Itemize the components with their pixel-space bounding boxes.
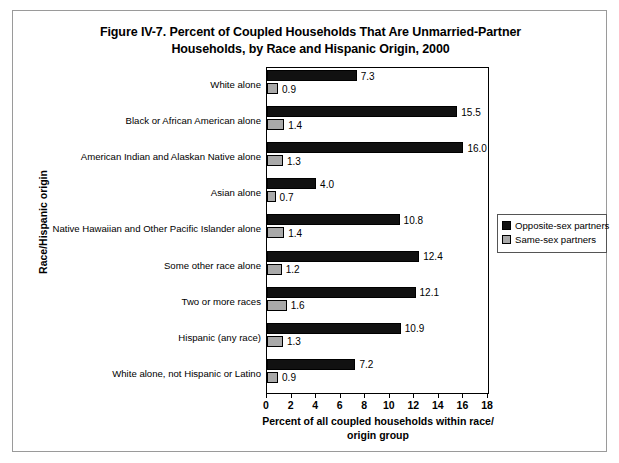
x-axis-title: Percent of all coupled households within…: [163, 414, 593, 442]
bar-rect: [267, 119, 284, 130]
bar-rect: [267, 323, 401, 334]
x-tick-mark: [340, 393, 341, 398]
bar-opposite-sex: 4.0: [267, 178, 488, 189]
bar-same-sex: 1.3: [267, 155, 488, 166]
bar-value-label: 15.5: [457, 106, 480, 117]
bar-same-sex: 1.4: [267, 227, 488, 238]
bar-value-label: 1.3: [283, 155, 301, 166]
legend-label: Opposite-sex partners: [515, 220, 609, 231]
bar-rect: [267, 264, 282, 275]
category-label: Some other race alone: [17, 260, 267, 271]
bar-rect: [267, 142, 463, 153]
x-tick-label: 18: [472, 399, 502, 411]
x-axis-title-line-1: Percent of all coupled households within…: [163, 414, 593, 428]
bar-opposite-sex: 10.9: [267, 323, 488, 334]
bar-value-label: 0.7: [276, 191, 294, 202]
bar-group: Native Hawaiian and Other Pacific Island…: [267, 212, 488, 248]
x-tick-mark: [462, 393, 463, 398]
bar-rect: [267, 227, 284, 238]
bar-opposite-sex: 7.3: [267, 70, 488, 81]
category-label: American Indian and Alaskan Native alone: [17, 151, 267, 162]
bar-rect: [267, 336, 283, 347]
bar-group: Asian alone4.00.7: [267, 176, 488, 212]
bar-value-label: 10.9: [401, 323, 424, 334]
bar-opposite-sex: 10.8: [267, 214, 488, 225]
bar-value-label: 10.8: [400, 214, 423, 225]
bar-value-label: 1.2: [282, 264, 300, 275]
x-tick-mark: [487, 393, 488, 398]
x-tick-mark: [291, 393, 292, 398]
bar-group: White alone7.30.9: [267, 68, 488, 104]
bar-group: Two or more races12.11.6: [267, 285, 488, 321]
bar-value-label: 0.9: [278, 83, 296, 94]
bar-same-sex: 1.6: [267, 300, 488, 311]
x-tick-mark: [413, 393, 414, 398]
figure-frame: Figure IV-7. Percent of Coupled Househol…: [12, 10, 607, 452]
category-label: Hispanic (any race): [17, 332, 267, 343]
chart-legend: Opposite-sex partnersSame-sex partners: [497, 214, 607, 253]
bar-opposite-sex: 16.0: [267, 142, 488, 153]
bar-group: Black or African American alone15.51.4: [267, 104, 488, 140]
legend-item[interactable]: Opposite-sex partners: [502, 220, 602, 231]
bar-rect: [267, 251, 419, 262]
bar-same-sex: 1.2: [267, 264, 488, 275]
bar-same-sex: 0.7: [267, 191, 488, 202]
bar-opposite-sex: 15.5: [267, 106, 488, 117]
page-title: Figure IV-7. Percent of Coupled Househol…: [53, 24, 568, 58]
bar-rect: [267, 214, 400, 225]
bar-value-label: 1.6: [287, 300, 305, 311]
bar-value-label: 0.9: [278, 372, 296, 383]
bar-rect: [267, 287, 416, 298]
bar-value-label: 1.4: [284, 119, 302, 130]
bar-opposite-sex: 12.4: [267, 251, 488, 262]
bar-same-sex: 1.4: [267, 119, 488, 130]
bar-value-label: 12.1: [416, 287, 439, 298]
legend-label: Same-sex partners: [515, 234, 596, 245]
plot-area: White alone7.30.9Black or African Americ…: [266, 67, 489, 394]
bar-value-label: 4.0: [316, 178, 334, 189]
bar-rect: [267, 300, 287, 311]
x-tick-mark: [266, 393, 267, 398]
bar-group: White alone, not Hispanic or Latino7.20.…: [267, 357, 488, 393]
x-axis-title-line-2: origin group: [163, 428, 593, 442]
category-label: Asian alone: [17, 187, 267, 198]
bar-opposite-sex: 12.1: [267, 287, 488, 298]
bar-value-label: 1.3: [283, 336, 301, 347]
bar-value-label: 1.4: [284, 227, 302, 238]
legend-item[interactable]: Same-sex partners: [502, 234, 602, 245]
x-tick-mark: [389, 393, 390, 398]
bar-opposite-sex: 7.2: [267, 359, 488, 370]
category-label: Native Hawaiian and Other Pacific Island…: [17, 223, 267, 234]
bar-rect: [267, 83, 278, 94]
bar-group: American Indian and Alaskan Native alone…: [267, 140, 488, 176]
chart-title-line-1: Figure IV-7. Percent of Coupled Househol…: [53, 24, 568, 41]
bar-rect: [267, 178, 316, 189]
bar-rect: [267, 70, 357, 81]
bar-group: Some other race alone12.41.2: [267, 249, 488, 285]
opposite-sex-swatch-icon: [502, 221, 511, 230]
bar-rect: [267, 359, 355, 370]
bar-value-label: 7.3: [357, 70, 375, 81]
bar-value-label: 7.2: [355, 359, 373, 370]
category-label: White alone: [17, 79, 267, 90]
same-sex-swatch-icon: [502, 235, 511, 244]
chart-title-line-2: Households, by Race and Hispanic Origin,…: [53, 41, 568, 58]
bar-group: Hispanic (any race)10.91.3: [267, 321, 488, 357]
bar-rect: [267, 372, 278, 383]
category-label: White alone, not Hispanic or Latino: [17, 368, 267, 379]
bar-same-sex: 0.9: [267, 83, 488, 94]
x-tick-mark: [438, 393, 439, 398]
bar-rect: [267, 191, 276, 202]
x-tick-mark: [364, 393, 365, 398]
bar-value-label: 12.4: [419, 251, 442, 262]
category-label: Two or more races: [17, 296, 267, 307]
x-tick-mark: [315, 393, 316, 398]
bar-same-sex: 0.9: [267, 372, 488, 383]
bar-value-label: 16.0: [463, 142, 486, 153]
bar-rect: [267, 155, 283, 166]
category-label: Black or African American alone: [17, 115, 267, 126]
bar-rect: [267, 106, 457, 117]
bar-same-sex: 1.3: [267, 336, 488, 347]
